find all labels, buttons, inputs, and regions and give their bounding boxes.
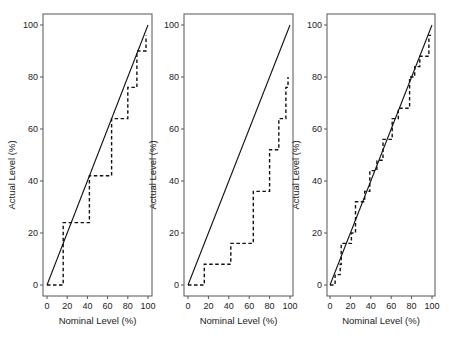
y-tick-label: 100	[23, 20, 38, 30]
y-tick-label: 0	[33, 280, 38, 290]
y-axis: 020406080100Actual Level (%)	[290, 20, 327, 290]
y-axis: 020406080100Actual Level (%)	[6, 20, 43, 290]
x-axis: 020406080100Nominal Level (%)	[185, 296, 297, 326]
x-tick-label: 80	[265, 301, 275, 311]
panel-3: 020406080100Nominal Level (%)02040608010…	[290, 14, 440, 326]
y-tick-label: 60	[312, 124, 322, 134]
x-tick-label: 100	[140, 301, 155, 311]
y-tick-label: 80	[312, 72, 322, 82]
x-tick-label: 60	[386, 301, 396, 311]
actual-level-step-line	[188, 77, 288, 285]
y-tick-label: 80	[28, 72, 38, 82]
x-axis: 020406080100Nominal Level (%)	[327, 296, 439, 326]
reference-line	[47, 25, 148, 285]
x-axis-label: Nominal Level (%)	[342, 315, 420, 326]
x-axis-label: Nominal Level (%)	[200, 315, 278, 326]
x-tick-label: 100	[282, 301, 297, 311]
y-tick-label: 100	[307, 20, 322, 30]
figure: 020406080100Nominal Level (%)02040608010…	[0, 0, 449, 342]
panel-2: 020406080100Nominal Level (%)02040608010…	[147, 14, 298, 326]
x-tick-label: 80	[123, 301, 133, 311]
x-axis-label: Nominal Level (%)	[59, 315, 137, 326]
reference-line	[188, 25, 290, 285]
y-axis-label: Actual Level (%)	[6, 140, 17, 209]
y-tick-label: 0	[174, 280, 179, 290]
y-tick-label: 20	[28, 228, 38, 238]
x-tick-label: 40	[224, 301, 234, 311]
y-axis-label: Actual Level (%)	[147, 140, 158, 209]
x-tick-label: 20	[62, 301, 72, 311]
x-tick-label: 0	[185, 301, 190, 311]
y-tick-label: 40	[312, 176, 322, 186]
x-tick-label: 40	[366, 301, 376, 311]
y-tick-label: 100	[164, 20, 179, 30]
x-tick-label: 0	[327, 301, 332, 311]
y-tick-label: 60	[28, 124, 38, 134]
panel-1: 020406080100Nominal Level (%)02040608010…	[6, 14, 156, 326]
x-axis: 020406080100Nominal Level (%)	[44, 296, 155, 326]
x-tick-label: 100	[424, 301, 439, 311]
y-tick-label: 40	[28, 176, 38, 186]
y-tick-label: 20	[169, 228, 179, 238]
y-axis: 020406080100Actual Level (%)	[147, 20, 184, 290]
x-tick-label: 20	[203, 301, 213, 311]
x-tick-label: 60	[103, 301, 113, 311]
reference-line	[330, 25, 432, 285]
x-tick-label: 20	[345, 301, 355, 311]
y-tick-label: 60	[169, 124, 179, 134]
y-tick-label: 20	[312, 228, 322, 238]
y-axis-label: Actual Level (%)	[290, 140, 301, 209]
x-tick-label: 80	[407, 301, 417, 311]
x-tick-label: 60	[244, 301, 254, 311]
x-tick-label: 40	[82, 301, 92, 311]
y-tick-label: 0	[317, 280, 322, 290]
x-tick-label: 0	[44, 301, 49, 311]
y-tick-label: 80	[169, 72, 179, 82]
y-tick-label: 40	[169, 176, 179, 186]
